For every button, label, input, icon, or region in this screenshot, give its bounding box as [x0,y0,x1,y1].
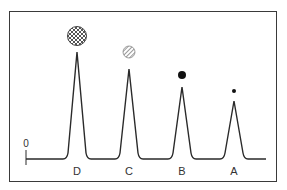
marker-a-dot-icon [232,89,236,93]
peaks-trace [26,52,266,159]
zero-label: 0 [23,138,29,149]
marker-b-solid-icon [178,71,186,79]
marker-d-crosshatch-icon [68,27,87,46]
marker-c-hatched-icon [123,46,135,58]
peak-label-d: D [73,165,81,177]
peak-label-b: B [178,165,185,177]
peak-label-c: C [125,165,133,177]
peak-label-a: A [230,165,237,177]
peaks-diagram [0,0,287,190]
